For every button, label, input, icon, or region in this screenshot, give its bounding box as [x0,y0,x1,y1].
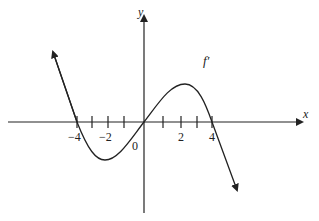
tick-label-4: 4 [209,131,215,143]
f-prime-curve [53,52,237,190]
origin-label: 0 [132,140,138,152]
y-axis-label: y [138,6,143,18]
tick-label-neg2: −2 [99,131,112,143]
function-label: f′ [203,54,209,67]
x-axis-label: x [303,108,308,120]
graph-canvas [0,0,319,221]
tick-label-neg4: −4 [68,131,81,143]
tick-label-2: 2 [178,131,184,143]
